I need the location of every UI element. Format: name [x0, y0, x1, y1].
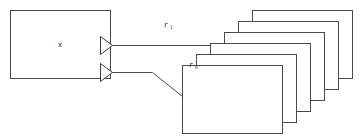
target-stack-box-1[interactable]: [183, 66, 283, 134]
source-entity-box[interactable]: x: [11, 11, 111, 79]
relationship-label-r1: r 1: [164, 19, 173, 30]
rn-label-text: r: [189, 59, 193, 69]
rn-label-subscript: n: [195, 64, 198, 70]
relationship-line-rn[interactable]: [111, 73, 183, 97]
rn-line-path: [111, 73, 183, 97]
r1-label-subscript: 1: [170, 24, 173, 30]
diagram-svg: One x: [0, 0, 364, 136]
r1-label-text: r: [164, 19, 168, 29]
source-entity-label: x: [58, 40, 62, 49]
target-box-rect: [183, 66, 283, 134]
er-diagram-canvas: One x: [0, 0, 364, 136]
